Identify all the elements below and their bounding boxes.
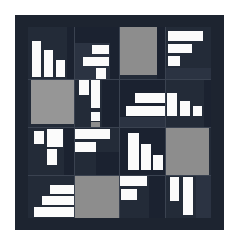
quilt-patch-r1c4-1 xyxy=(168,44,192,53)
quilt-block-ascending-horizontal-staircase xyxy=(28,175,74,218)
quilt-patch-r4c3-2 xyxy=(149,175,165,218)
quilt-block-top-right-stacked-bars xyxy=(165,27,211,79)
quilt-block-large-gray-square xyxy=(119,27,165,79)
quilt-patch-r1c1-2 xyxy=(56,60,65,77)
quilt-block-center-vertical-pair xyxy=(119,127,165,175)
quilt-patch-r4c1-0 xyxy=(50,185,74,194)
quilt-block-lower-left-step-bars xyxy=(28,127,74,175)
quilt-patch-r2c1-0 xyxy=(31,79,74,124)
quilt-patch-r1c2-4 xyxy=(110,43,119,79)
quilt-patch-r4c1-1 xyxy=(42,196,74,205)
quilt-patch-r4c4-1 xyxy=(183,177,193,215)
quilt-patch-r1c2-2 xyxy=(83,57,109,66)
quilt-patch-r2c3-0 xyxy=(135,93,165,103)
quilt-patch-r2c3-2 xyxy=(119,117,165,127)
quilt-patch-r2c4-2 xyxy=(193,106,202,116)
quilt-patch-r1c4-3 xyxy=(165,68,211,79)
quilt-patch-r1c1-1 xyxy=(44,50,53,77)
quilt-patch-r2c2-1 xyxy=(91,79,100,108)
quilt-patch-r3c1-0 xyxy=(34,131,44,144)
quilt-seam-vertical xyxy=(119,27,120,218)
quilt-block-vertical-bar-cluster xyxy=(74,79,119,127)
quilt-block-stepped-bars-dark-ground xyxy=(74,27,119,79)
quilt-patch-r1c1-0 xyxy=(32,41,41,77)
quilt-patch-r1c3-0 xyxy=(119,27,157,75)
quilt-patch-r4c4-2 xyxy=(196,175,211,218)
quilt-patch-r3c1-1 xyxy=(47,129,63,147)
quilt-patch-r2c2-2 xyxy=(102,79,119,127)
quilt-patch-r2c4-1 xyxy=(180,101,190,116)
quilt-patch-r3c1-2 xyxy=(47,149,57,165)
quilt-patch-r1c3-1 xyxy=(157,27,165,79)
quilt-seam-horizontal xyxy=(28,127,211,128)
quilt-border-frame xyxy=(15,15,224,230)
quilt-block-long-horizontal-bars xyxy=(74,127,119,175)
quilt-patch-r3c4-0 xyxy=(165,127,209,175)
quilt-patch-r3c3-2 xyxy=(153,155,163,170)
quilt-block-bottom-right-gray-square xyxy=(165,127,211,175)
quilt-patch-r2c3-1 xyxy=(126,106,165,116)
quilt-patch-r1c1-3 xyxy=(67,27,74,79)
quilt-patch-r4c3-0 xyxy=(119,176,147,186)
quilt-block-right-vertical-bars xyxy=(165,79,211,127)
quilt-block-bottom-right-vertical-bars xyxy=(165,175,211,218)
quilt-patch-r4c3-1 xyxy=(121,189,137,200)
quilt-patch-r4c2-0 xyxy=(74,175,119,218)
quilt-patch-r3c2-2 xyxy=(96,152,119,175)
quilt-block-field xyxy=(28,27,211,218)
quilt-patch-r1c4-0 xyxy=(168,31,203,41)
quilt-seam-horizontal xyxy=(28,79,211,80)
artwork-canvas: Abstract Geometric Quilt Composition xyxy=(0,0,239,244)
quilt-patch-r3c2-1 xyxy=(74,142,96,152)
quilt-patch-r4c1-2 xyxy=(34,207,74,217)
quilt-patch-r1c2-1 xyxy=(92,45,109,54)
quilt-block-center-right-bars xyxy=(119,79,165,127)
quilt-patch-r4c4-0 xyxy=(170,177,179,201)
quilt-patch-r2c4-0 xyxy=(167,93,177,116)
quilt-patch-r1c4-2 xyxy=(168,56,180,66)
quilt-patch-r2c2-3 xyxy=(91,112,100,121)
quilt-patch-r3c3-1 xyxy=(141,144,151,170)
quilt-patch-r3c3-0 xyxy=(128,133,139,170)
quilt-block-bottom-center-bars xyxy=(119,175,165,218)
quilt-patch-r1c2-0 xyxy=(74,27,119,43)
quilt-seam-horizontal xyxy=(28,175,211,176)
quilt-patch-r3c2-0 xyxy=(74,129,110,139)
quilt-patch-r1c2-3 xyxy=(96,68,106,79)
quilt-patch-r3c1-3 xyxy=(64,127,74,175)
quilt-block-mid-left-gray-square xyxy=(28,79,74,127)
quilt-seam-vertical xyxy=(74,27,75,218)
quilt-block-bottom-gray-square xyxy=(74,175,119,218)
quilt-patch-r2c4-3 xyxy=(204,79,211,127)
quilt-block-descending-bar-staircase xyxy=(28,27,74,79)
quilt-patch-r2c2-0 xyxy=(79,79,89,95)
quilt-seam-vertical xyxy=(165,27,166,218)
